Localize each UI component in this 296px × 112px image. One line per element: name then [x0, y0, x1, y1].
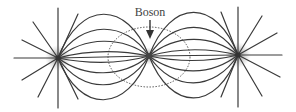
boson-label: Boson	[131, 5, 169, 19]
arrow-down-icon	[146, 20, 154, 39]
boson-exchange-diagram: Boson	[0, 0, 296, 112]
right-particle	[236, 53, 241, 58]
boson-particle	[146, 53, 152, 59]
left-particle	[56, 56, 61, 61]
